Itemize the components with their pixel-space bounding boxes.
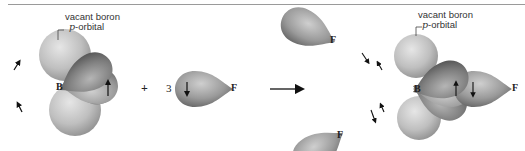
fluorine-label-upper-left: F <box>330 34 336 45</box>
fluorine-label-right: F <box>512 82 518 93</box>
fluorine-atom-label: F <box>231 82 237 93</box>
product-bf3-orbitals <box>275 1 512 151</box>
electron-arrow-icon <box>362 53 368 62</box>
fluorine-label-lower-left: F <box>337 129 343 140</box>
reactant-boron-orbitals <box>14 29 121 136</box>
product-boron-label: B <box>414 83 421 94</box>
coefficient: 3 <box>166 82 172 94</box>
label-line-2: p-orbital <box>69 22 120 32</box>
plus-sign: + <box>141 81 148 96</box>
electron-arrow-icon <box>381 105 384 112</box>
electron-arrow-icon <box>378 63 382 70</box>
electron-arrow-icon <box>18 104 22 112</box>
orbital-word: -orbital <box>428 19 457 30</box>
fluorine-orbital <box>175 71 233 107</box>
product-vacant-orbital-label: vacant boron p-orbital <box>418 10 473 30</box>
label-line-2: p-orbital <box>422 20 473 30</box>
electron-arrow-icon <box>371 110 375 121</box>
orbital-word: -orbital <box>75 21 104 32</box>
electron-arrow-icon <box>14 62 19 70</box>
boron-atom-label: B <box>56 81 63 92</box>
vacant-orbital-label: vacant boron p-orbital <box>65 12 120 32</box>
